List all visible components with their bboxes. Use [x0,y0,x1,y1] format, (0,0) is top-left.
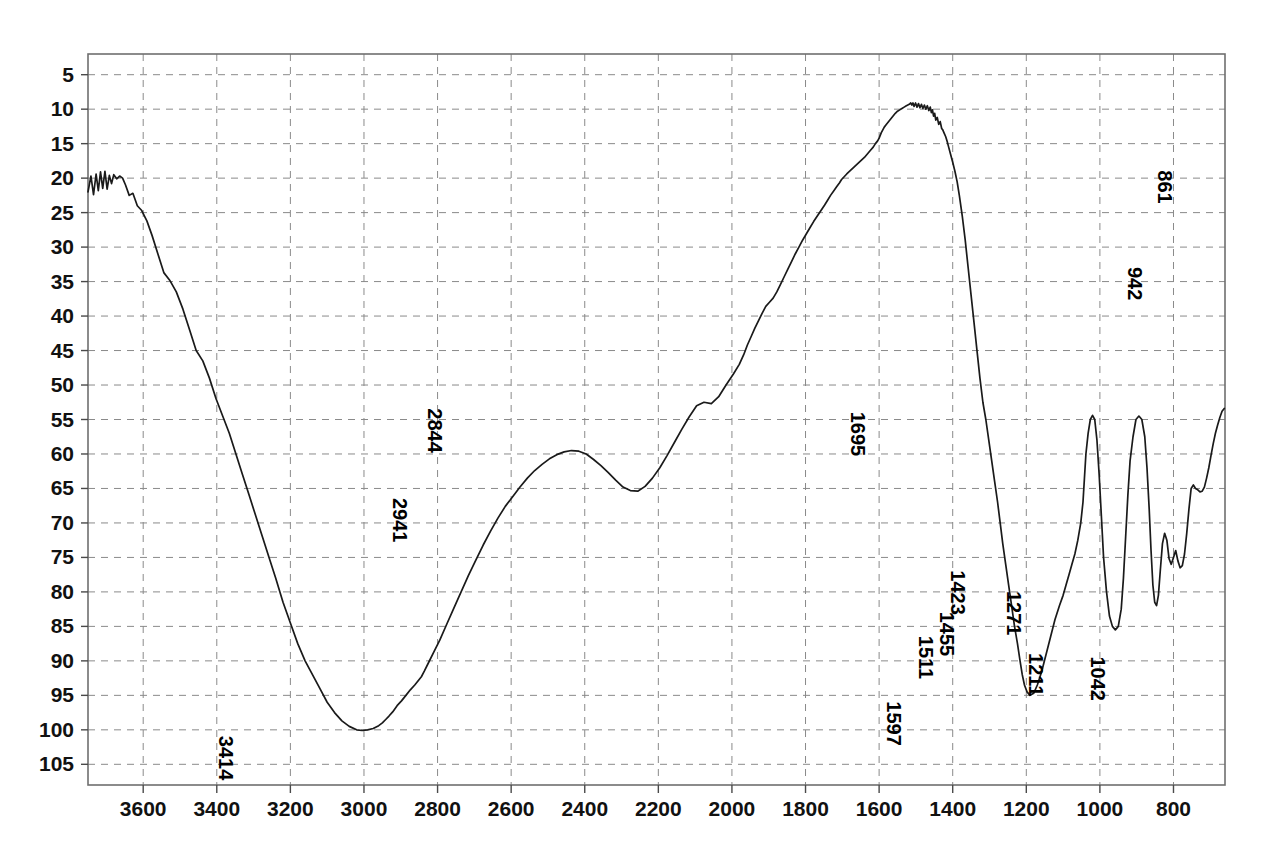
x-axis-tick-labels: 3600340032003000280026002400220020001800… [120,797,1191,820]
peak-label-1597: 1597 [883,701,905,746]
ir-spectrum-chart: 1051009590858075706560555045403530252015… [0,0,1273,849]
x-axis-tick-label: 3000 [341,797,388,820]
y-axis-tick-label: 10 [51,97,74,120]
peak-label-861: 861 [1154,170,1176,203]
x-axis-tick-label: 3200 [267,797,314,820]
peak-label-1211: 1211 [1025,653,1047,696]
y-axis-tick-label: 80 [51,580,74,603]
x-axis-tick-label: 1600 [856,797,903,820]
y-axis-tick-label: 65 [51,476,75,499]
y-axis-tick-label: 75 [51,545,75,568]
peak-label-942: 942 [1124,267,1146,300]
y-axis-tick-label: 60 [51,442,74,465]
peak-label-1271: 1271 [1003,591,1025,636]
y-axis-tick-label: 15 [51,132,75,155]
x-axis-tick-label: 2600 [488,797,535,820]
y-axis-tick-label: 70 [51,511,74,534]
y-axis-tick-label: 30 [51,235,74,258]
y-axis-tick-label: 100 [39,718,74,741]
y-axis-tick-label: 40 [51,304,74,327]
peak-label-1423: 1423 [947,570,969,615]
y-axis-tick-label: 25 [51,201,75,224]
y-axis-tick-label: 90 [51,649,74,672]
x-axis-tick-label: 1200 [1003,797,1050,820]
peak-label-1511: 1511 [915,636,937,679]
x-axis-tick-label: 800 [1156,797,1191,820]
peak-label-1042: 1042 [1087,657,1109,702]
y-axis-tick-label: 20 [51,166,74,189]
peak-label-1455: 1455 [936,612,958,657]
x-axis-tick-label: 1000 [1077,797,1124,820]
x-axis-tick-label: 2000 [709,797,756,820]
x-axis-tick-label: 2400 [561,797,608,820]
peak-label-2941: 2941 [389,498,411,543]
y-axis-tick-label: 85 [51,614,75,637]
peak-label-1695: 1695 [847,412,869,457]
x-axis-tick-label: 1800 [782,797,829,820]
peak-label-3414: 3414 [215,736,237,781]
x-axis-tick-label: 2800 [414,797,461,820]
y-axis-tick-label: 5 [62,63,74,86]
y-axis-tick-label: 105 [39,752,74,775]
chart-background [0,0,1273,849]
y-axis-tick-label: 45 [51,339,75,362]
spectrum-plot: 1051009590858075706560555045403530252015… [0,0,1273,849]
y-axis-tick-label: 55 [51,408,75,431]
x-axis-tick-label: 3400 [193,797,240,820]
x-axis-tick-label: 1400 [929,797,976,820]
y-axis-tick-label: 95 [51,683,75,706]
y-axis-tick-label: 35 [51,270,75,293]
x-axis-tick-label: 2200 [635,797,682,820]
peak-label-2844: 2844 [424,408,446,453]
y-axis-tick-label: 50 [51,373,74,396]
x-axis-tick-label: 3600 [120,797,167,820]
